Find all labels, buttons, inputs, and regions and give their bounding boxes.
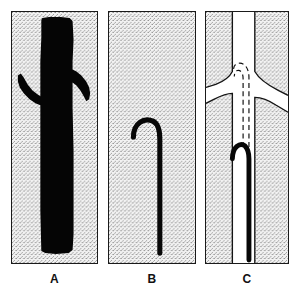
caption-label-a: A bbox=[11, 272, 98, 286]
panel-c bbox=[205, 11, 289, 264]
panel-b-artwork bbox=[109, 12, 195, 263]
panel-b bbox=[108, 11, 196, 264]
caption-label-b: B bbox=[108, 272, 196, 286]
panel-a bbox=[11, 11, 98, 264]
caption-label-c: C bbox=[205, 272, 289, 286]
figure-container: A B C bbox=[0, 0, 301, 307]
panel-c-artwork bbox=[206, 12, 288, 263]
panel-a-artwork bbox=[12, 12, 97, 263]
panel-b-background bbox=[109, 12, 195, 263]
caption-row: A B C bbox=[0, 272, 301, 296]
